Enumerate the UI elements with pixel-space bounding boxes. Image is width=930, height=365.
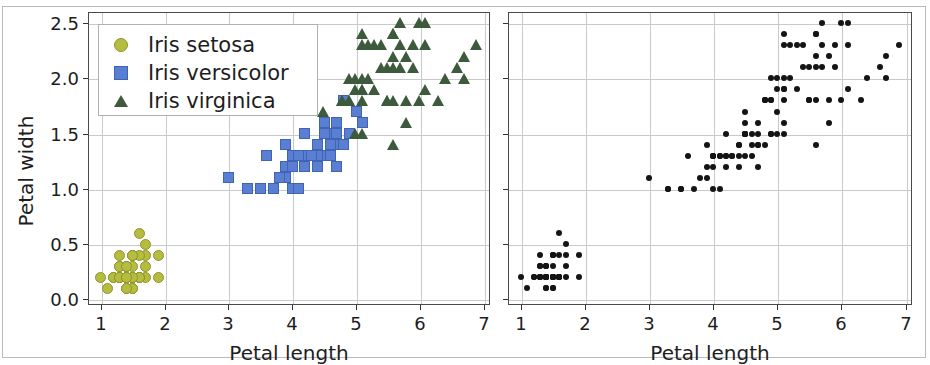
x-gridline [650, 13, 651, 304]
data-point-circle [781, 42, 787, 48]
data-point-circle [576, 252, 582, 258]
data-point-circle [691, 186, 697, 192]
data-point-circle [736, 153, 742, 159]
right-panel-axes [508, 12, 912, 305]
data-point-circle [678, 186, 684, 192]
data-point-circle [749, 131, 755, 137]
x-gridline [778, 13, 779, 304]
data-point-circle [723, 164, 729, 170]
data-point-circle [576, 274, 582, 280]
x-gridline [842, 13, 843, 304]
data-point-circle [736, 164, 742, 170]
data-point-circle [813, 53, 819, 59]
data-point-circle [755, 142, 761, 148]
y-tick [503, 299, 508, 300]
x-tick-label: 7 [900, 313, 911, 334]
x-tick-label: 5 [771, 313, 782, 334]
data-point-circle [755, 164, 761, 170]
y-tick [503, 78, 508, 79]
data-point-circle [781, 120, 787, 126]
data-point-circle [813, 31, 819, 37]
data-point-circle [762, 97, 768, 103]
x-tick [841, 305, 842, 310]
data-point-circle [704, 142, 710, 148]
data-point-circle [755, 131, 761, 137]
y-tick [503, 23, 508, 24]
data-point-circle [563, 252, 569, 258]
x-tick [521, 305, 522, 310]
y-tick [503, 244, 508, 245]
y-gridline [509, 300, 911, 301]
x-tick-label: 1 [515, 313, 526, 334]
y-tick [503, 189, 508, 190]
data-point-circle [826, 53, 832, 59]
data-point-circle [704, 175, 710, 181]
data-point-circle [781, 131, 787, 137]
data-point-circle [646, 175, 652, 181]
data-point-circle [723, 153, 729, 159]
data-point-circle [736, 142, 742, 148]
data-point-circle [813, 142, 819, 148]
y-gridline [509, 245, 911, 246]
x-gridline [522, 13, 523, 304]
data-point-circle [685, 153, 691, 159]
data-point-circle [845, 20, 851, 26]
data-point-circle [768, 131, 774, 137]
data-point-circle [774, 109, 780, 115]
data-point-circle [742, 153, 748, 159]
data-point-circle [531, 274, 537, 280]
data-point-circle [742, 131, 748, 137]
data-point-circle [826, 120, 832, 126]
data-point-circle [717, 186, 723, 192]
x-tick-label: 6 [835, 313, 846, 334]
data-point-circle [794, 42, 800, 48]
data-point-circle [749, 153, 755, 159]
data-point-circle [742, 109, 748, 115]
y-gridline [509, 135, 911, 136]
x-tick-label: 2 [579, 313, 590, 334]
x-tick [906, 305, 907, 310]
x-tick [585, 305, 586, 310]
x-tick-label: 3 [643, 313, 654, 334]
data-point-circle [781, 31, 787, 37]
data-point-circle [762, 142, 768, 148]
data-point-circle [717, 153, 723, 159]
y-gridline [509, 79, 911, 80]
figure-root: 12345670.00.51.01.52.02.5Petal lengthPet… [0, 0, 930, 365]
data-point-circle [774, 131, 780, 137]
data-point-circle [749, 142, 755, 148]
x-gridline [907, 13, 908, 304]
x-tick-label: 4 [707, 313, 718, 334]
data-point-circle [563, 263, 569, 269]
data-point-circle [563, 241, 569, 247]
data-point-circle [794, 86, 800, 92]
x-gridline [586, 13, 587, 304]
data-point-circle [723, 131, 729, 137]
data-point-circle [845, 42, 851, 48]
data-point-circle [755, 120, 761, 126]
x-axis-title: Petal length [650, 341, 769, 365]
right-scatter-panel: 1234567Petal length [0, 0, 930, 365]
x-tick [777, 305, 778, 310]
x-tick [649, 305, 650, 310]
x-tick [713, 305, 714, 310]
data-point-circle [710, 164, 716, 170]
y-tick [503, 134, 508, 135]
data-point-circle [742, 120, 748, 126]
data-point-circle [704, 164, 710, 170]
data-point-circle [710, 153, 716, 159]
